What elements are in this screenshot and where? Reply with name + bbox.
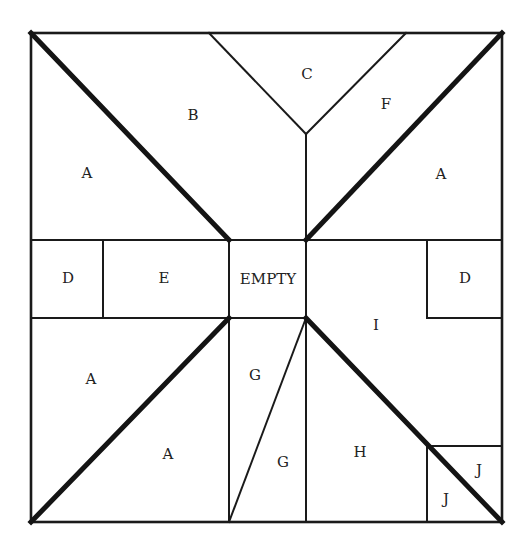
label-e: E [159, 269, 170, 287]
label-d-left: D [62, 269, 74, 287]
label-a-top-right: A [435, 165, 447, 183]
label-f: F [381, 95, 391, 113]
label-a-bottom-left-upper: A [85, 370, 97, 388]
label-h: H [353, 443, 366, 461]
label-g-upper: G [249, 366, 261, 384]
label-j-lower: J [441, 490, 449, 508]
label-b: B [187, 106, 198, 124]
label-a-bottom-left-lower: A [162, 445, 174, 463]
c-left-edge [209, 33, 306, 134]
label-d-right: D [459, 269, 471, 287]
c-right-edge [306, 33, 406, 134]
label-a-top-left: A [81, 164, 93, 182]
thick-diagonal-top-left [31, 33, 229, 240]
puzzle-diagram: A B C F A D E EMPTY D I A A G G H J J [0, 0, 529, 552]
label-g-lower: G [277, 453, 289, 471]
thick-diagonal-bottom-left [31, 318, 229, 522]
g-diagonal [229, 318, 306, 522]
thick-diagonal-bottom-right [306, 318, 502, 522]
thick-diagonal-top-right [306, 33, 502, 240]
label-i: I [373, 316, 379, 334]
label-j-upper: J [474, 461, 482, 479]
label-c: C [301, 65, 312, 83]
label-empty: EMPTY [240, 270, 297, 288]
